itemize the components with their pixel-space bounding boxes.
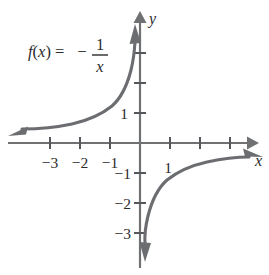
x-tick-label-minus2: −2 <box>72 154 89 171</box>
function-label-sign: − <box>77 42 86 61</box>
y-tick-labels: 1 −1 −2 −3 <box>115 105 132 242</box>
x-axis-arrowhead <box>247 137 259 150</box>
curve-right-path <box>145 157 249 244</box>
function-label-denominator: x <box>95 57 104 76</box>
y-tick-label-minus2: −2 <box>115 195 132 212</box>
x-tick-label-minus3: −3 <box>42 154 59 171</box>
curve-down-arrowhead <box>140 242 152 262</box>
curve-right-branch <box>140 149 264 263</box>
curve-left-arrowhead <box>8 127 28 137</box>
y-axis-label: y <box>147 10 157 28</box>
function-label: f(x) = − 1 x <box>28 35 108 76</box>
graph-figure: −3 −2 −1 1 1 −1 −2 −3 y x f(x) = − 1 x <box>0 0 269 275</box>
y-tick-label-minus1: −1 <box>115 165 132 182</box>
hyperbola-plot: −3 −2 −1 1 1 −1 −2 −3 y x f(x) = − 1 x <box>0 0 269 275</box>
function-label-numerator: 1 <box>96 35 104 54</box>
y-tick-label-minus3: −3 <box>115 225 132 242</box>
function-label-lhs: f(x) = <box>28 42 64 61</box>
x-axis-label: x <box>254 152 262 169</box>
y-axis-arrowhead <box>134 11 147 23</box>
x-tick-labels: −3 −2 −1 1 <box>42 154 172 176</box>
y-tick-label-1: 1 <box>120 105 128 122</box>
x-tick-label-1: 1 <box>164 159 172 176</box>
